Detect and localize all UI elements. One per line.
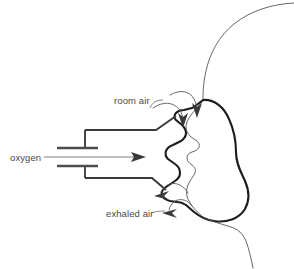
- oxygen-label: oxygen: [10, 152, 41, 163]
- exhaled-air-arrow-head-2: [162, 209, 177, 218]
- tube-connector-group: [57, 139, 98, 176]
- forehead-curve: [203, 3, 294, 101]
- nose-lips-chin-profile: [186, 101, 203, 217]
- room-air-label: room air: [114, 95, 150, 106]
- mask-upper-wall: [85, 116, 176, 130]
- exhaled-air-label: exhaled air: [106, 208, 154, 219]
- oxygen-mask-outline-group: [162, 100, 249, 222]
- mask-lower-wall: [85, 178, 166, 190]
- oxygen-mask-diagram: oxygen room air exhaled air: [0, 0, 294, 269]
- facial-profile-group: [186, 101, 253, 268]
- mask-flare-group: [85, 116, 176, 190]
- leader-lines: [44, 100, 165, 213]
- mask-outline: [162, 100, 249, 222]
- oxygen-flow-arrow: [44, 152, 146, 162]
- head-profile-group: [203, 3, 294, 101]
- diagram-canvas: oxygen room air exhaled air: [0, 0, 294, 269]
- chin-neck-line: [203, 217, 253, 268]
